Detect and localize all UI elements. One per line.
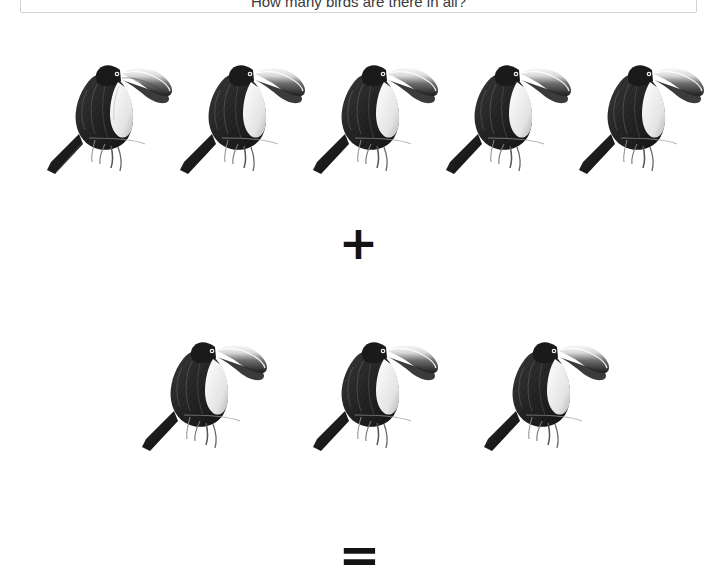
toucan-icon (291, 305, 443, 455)
equals-glyph: = (339, 530, 381, 578)
equals-operator: = (0, 524, 717, 574)
plus-operator: + (0, 215, 717, 262)
toucan-icon (462, 305, 614, 455)
plus-glyph: + (339, 219, 378, 266)
toucan-icon (158, 28, 310, 178)
toucan-icon (424, 28, 576, 178)
toucan-icon (25, 28, 177, 178)
second-addend-group (0, 305, 717, 455)
visual-addition-puzzle: + = (0, 0, 717, 578)
first-addend-group (0, 28, 717, 178)
toucan-icon (291, 28, 443, 178)
toucan-icon (557, 28, 709, 178)
toucan-icon (120, 305, 272, 455)
